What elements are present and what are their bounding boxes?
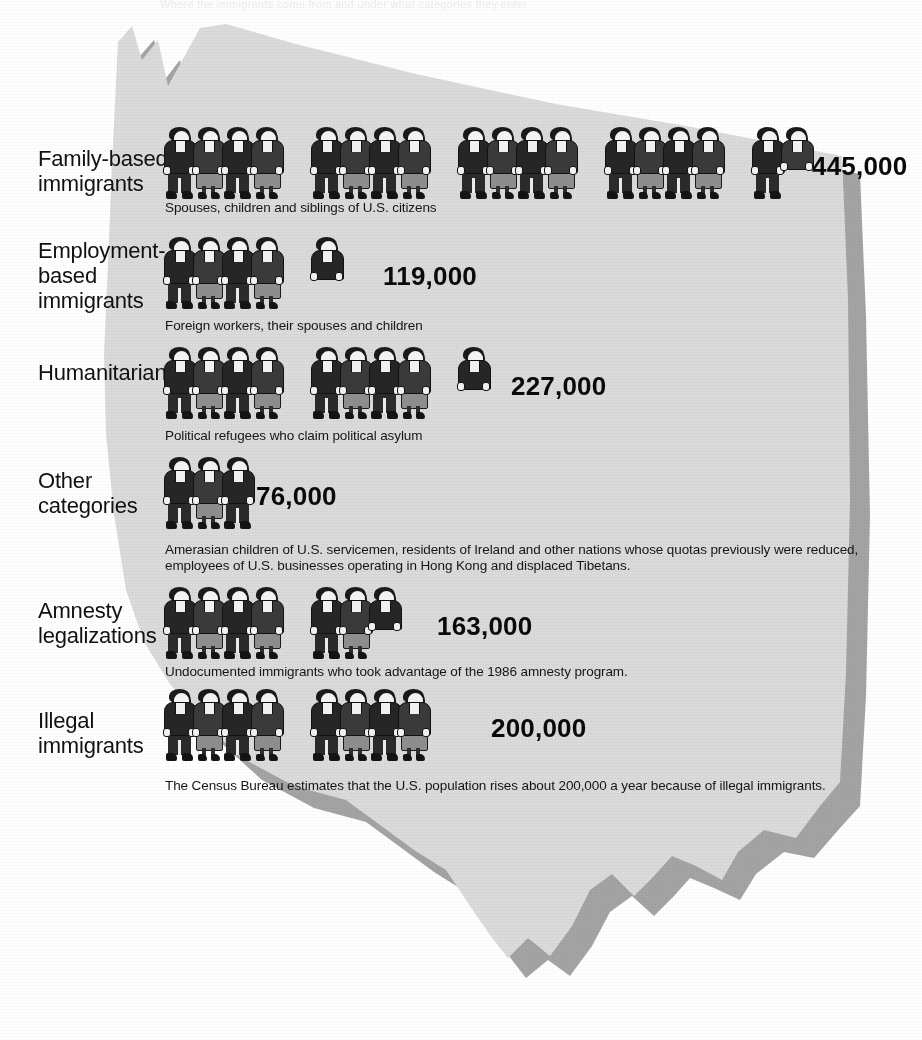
rows-container: Family-based immigrants [0,0,922,1040]
value-employment-based: 119,000 [383,261,477,292]
picto-cluster [163,588,283,660]
person-icon-half [310,238,343,310]
person-icon [250,238,283,310]
caption-other-categories: Amerasian children of U.S. servicemen, r… [165,542,915,573]
caption-humanitarian: Political refugees who claim political a… [165,428,915,444]
person-icon-half [368,588,401,660]
picto-cluster [163,128,283,200]
value-family-based: 445,000 [812,151,907,182]
person-icon [250,128,283,200]
pictogram-group-amnesty-legalizations [163,588,401,660]
picto-cluster [163,238,283,310]
picto-cluster [310,238,343,310]
picto-cluster [310,348,430,420]
picto-cluster [163,458,254,530]
pictogram-group-employment-based [163,238,343,310]
person-icon [397,690,430,762]
person-icon [250,588,283,660]
picto-cluster [310,588,401,660]
picto-cluster [457,348,490,420]
caption-amnesty-legalizations: Undocumented immigrants who took advanta… [165,664,915,680]
person-icon [691,128,724,200]
person-icon [397,348,430,420]
person-icon [250,348,283,420]
caption-illegal-immigrants: The Census Bureau estimates that the U.S… [165,778,915,794]
person-icon-half [780,128,813,200]
picto-cluster [604,128,724,200]
pictogram-group-illegal-immigrants [163,690,430,762]
pictogram-group-humanitarian [163,348,490,420]
person-icon [250,690,283,762]
person-icon [221,458,254,530]
picto-cluster [310,690,430,762]
value-amnesty-legalizations: 163,000 [437,611,532,642]
person-icon [544,128,577,200]
pictogram-group-other-categories [163,458,254,530]
value-illegal-immigrants: 200,000 [491,713,586,744]
infographic-page: Where the immigrants come from and under… [0,0,922,1040]
caption-family-based: Spouses, children and siblings of U.S. c… [165,200,915,216]
picto-cluster [457,128,577,200]
picto-cluster [163,690,283,762]
picto-cluster [751,128,813,200]
value-humanitarian: 227,000 [511,371,606,402]
caption-employment-based: Foreign workers, their spouses and child… [165,318,915,334]
person-icon [397,128,430,200]
picto-cluster [163,348,283,420]
person-icon-half [457,348,490,420]
value-other-categories: 76,000 [256,481,337,512]
picto-cluster [310,128,430,200]
pictogram-group-family-based [163,128,813,200]
